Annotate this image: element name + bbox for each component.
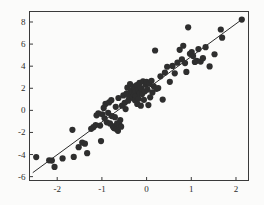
plot-canvas [0, 0, 264, 205]
y-tick-label: -2 [18, 128, 26, 137]
data-point [183, 69, 189, 75]
data-point [172, 70, 178, 76]
data-point [155, 85, 161, 91]
data-point [97, 123, 103, 129]
x-tick-label: 0 [144, 185, 149, 194]
x-tick-label: 1 [189, 185, 194, 194]
data-point [138, 103, 144, 109]
y-tick-label: 6 [21, 40, 26, 49]
data-point [219, 35, 225, 41]
x-tick-label: 2 [234, 185, 239, 194]
data-point [202, 44, 208, 50]
data-point [164, 64, 170, 70]
data-point [141, 97, 147, 103]
data-point [148, 78, 154, 84]
figure-background [0, 0, 264, 205]
data-point [122, 106, 128, 112]
data-point [82, 141, 88, 147]
x-tick-label: -1 [98, 185, 106, 194]
data-point [160, 96, 166, 102]
y-tick-label: -4 [18, 150, 26, 159]
y-tick-label: 2 [21, 84, 26, 93]
data-point [145, 102, 151, 108]
data-point [33, 154, 39, 160]
data-point [59, 155, 65, 161]
data-point [167, 79, 173, 85]
scatter-plot-figure: 86420-2-4-6-2-1012 [0, 0, 264, 205]
y-tick-label: 0 [21, 106, 26, 115]
data-point [112, 114, 118, 120]
data-point [118, 124, 124, 130]
data-point [185, 24, 191, 30]
data-point [218, 26, 224, 32]
data-point [152, 47, 158, 53]
data-point [182, 60, 188, 66]
data-point [108, 97, 114, 103]
data-point [113, 104, 119, 110]
y-tick-label: 4 [21, 62, 26, 71]
data-point [84, 150, 90, 156]
data-point [98, 138, 104, 144]
data-point [180, 43, 186, 49]
data-point [239, 16, 245, 22]
data-point [207, 63, 213, 69]
data-point [117, 117, 123, 123]
data-point [195, 46, 201, 52]
data-point [69, 127, 75, 133]
data-point [51, 164, 57, 170]
x-tick-label: -2 [53, 185, 61, 194]
y-tick-label: 8 [21, 17, 26, 26]
data-point [162, 69, 168, 75]
data-point [49, 158, 55, 164]
data-point [71, 154, 77, 160]
data-point [211, 51, 217, 57]
data-point [200, 55, 206, 61]
y-tick-label: -6 [18, 172, 26, 181]
